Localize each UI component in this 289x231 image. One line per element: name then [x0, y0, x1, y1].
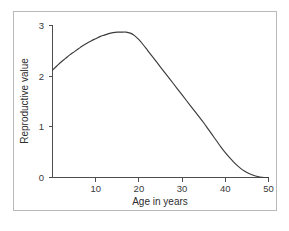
- x-tick-label-30: 30: [177, 183, 188, 194]
- y-tick-label-2: 2: [39, 71, 44, 82]
- x-axis: 10 20 30 40 50 Age in years: [53, 178, 274, 208]
- reproductive-value-chart: 3 2 1 0 Reproductive value 10 20 30 40 5…: [0, 0, 289, 231]
- x-axis-title: Age in years: [132, 196, 188, 207]
- y-tick-label-1: 1: [39, 121, 44, 132]
- reproductive-value-curve: [53, 32, 269, 178]
- y-tick-label-3: 3: [39, 20, 44, 31]
- y-axis: 3 2 1 0 Reproductive value: [19, 20, 53, 183]
- x-tick-label-40: 40: [220, 183, 231, 194]
- y-tick-label-0: 0: [39, 172, 44, 183]
- x-tick-label-10: 10: [90, 183, 101, 194]
- figure-root: 3 2 1 0 Reproductive value 10 20 30 40 5…: [0, 0, 289, 231]
- y-axis-title: Reproductive value: [19, 58, 30, 144]
- x-tick-label-50: 50: [263, 183, 274, 194]
- x-tick-label-20: 20: [134, 183, 145, 194]
